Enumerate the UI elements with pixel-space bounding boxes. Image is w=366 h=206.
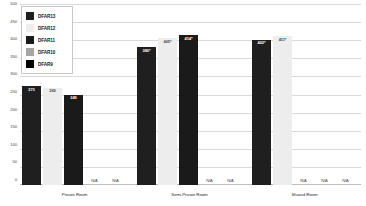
- y-tick-500: 500: [0, 2, 17, 6]
- na-semiprivate-dfar10: N/A: [200, 179, 219, 183]
- na-private-dfar9: N/A: [106, 179, 125, 183]
- x-label-semi-private-room: Semi-Private Room: [137, 192, 242, 197]
- legend-label: DFAR11: [38, 38, 55, 43]
- bar-value-label: 273: [22, 88, 41, 92]
- bar-value-label: 414*: [179, 37, 198, 41]
- y-tick-50: 50: [0, 160, 17, 164]
- y-tick-150: 150: [0, 125, 17, 129]
- bar-private-dfar12: 269: [43, 88, 62, 185]
- legend-label: DFAR10: [38, 50, 55, 55]
- legend-swatch-icon: [26, 24, 34, 32]
- bar-semiprivate-dfar12: 405*: [158, 38, 177, 185]
- legend-item-dfar13[interactable]: DFAR13: [26, 10, 69, 22]
- y-tick-450: 450: [0, 20, 17, 24]
- y-tick-300: 300: [0, 72, 17, 76]
- bar-value-label: 249: [64, 96, 83, 100]
- legend-swatch-icon: [26, 60, 34, 68]
- y-tick-400: 400: [0, 37, 17, 41]
- bar-private-dfar11: 249: [64, 95, 83, 185]
- bar-private-dfar13: 273: [22, 86, 41, 185]
- bar-value-label: 405*: [158, 40, 177, 44]
- legend-label: DFAR9: [38, 62, 53, 67]
- bar-chart: 500 450 400 350 300 250 200 150 100 50 0…: [0, 0, 366, 206]
- y-tick-350: 350: [0, 55, 17, 59]
- y-tick-0: 0: [0, 178, 17, 182]
- bar-value-label: 380*: [137, 49, 156, 53]
- y-tick-100: 100: [0, 143, 17, 147]
- legend-label: DFAR13: [38, 14, 55, 19]
- y-tick-250: 250: [0, 90, 17, 94]
- legend: DFAR13 DFAR12 DFAR11 DFAR10 DFAR9: [21, 6, 73, 74]
- y-tick-200: 200: [0, 108, 17, 112]
- na-private-dfar10: N/A: [85, 179, 104, 183]
- na-semiprivate-dfar9: N/A: [221, 179, 240, 183]
- legend-swatch-icon: [26, 12, 34, 20]
- legend-item-dfar12[interactable]: DFAR12: [26, 22, 69, 34]
- legend-item-dfar11[interactable]: DFAR11: [26, 34, 69, 46]
- bar-value-label: 269: [43, 89, 62, 93]
- legend-item-dfar9[interactable]: DFAR9: [26, 58, 69, 70]
- bar-semiprivate-dfar11: 414*: [179, 35, 198, 185]
- gridline-500: [20, 4, 361, 5]
- bar-value-label: 402*: [252, 41, 271, 45]
- bar-shared-dfar12: 411*: [273, 36, 292, 185]
- na-shared-dfar11: N/A: [294, 179, 313, 183]
- na-shared-dfar9: N/A: [336, 179, 355, 183]
- legend-swatch-icon: [26, 36, 34, 44]
- legend-swatch-icon: [26, 48, 34, 56]
- na-shared-dfar10: N/A: [315, 179, 334, 183]
- legend-label: DFAR12: [38, 26, 55, 31]
- bar-value-label: 411*: [273, 38, 292, 42]
- legend-item-dfar10[interactable]: DFAR10: [26, 46, 69, 58]
- x-label-shared-room: Shared Room: [252, 192, 357, 197]
- bar-semiprivate-dfar13: 380*: [137, 47, 156, 185]
- x-label-private-room: Private Room: [22, 192, 127, 197]
- bar-shared-dfar13: 402*: [252, 40, 271, 186]
